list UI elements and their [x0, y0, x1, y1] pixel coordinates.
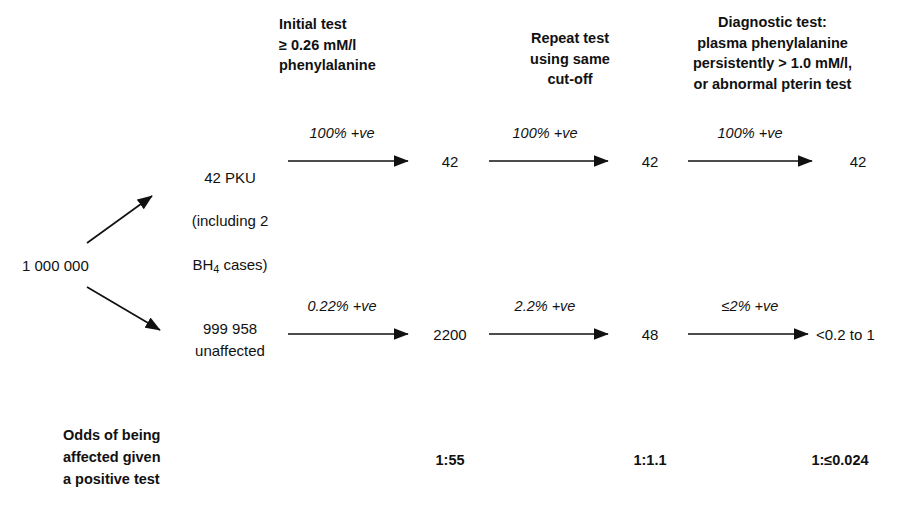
unaffected-value-3: <0.2 to 1 — [816, 326, 875, 343]
bh-suffix: cases) — [219, 256, 267, 273]
unaffected-value-2: 48 — [615, 326, 685, 343]
affected-value-3: 42 — [823, 153, 893, 170]
unaffected-value-1: 2200 — [415, 326, 485, 343]
affected-rate-1: 100% +ve — [272, 125, 412, 141]
header-diagnostic-test: Diagnostic test: plasma phenylalanine pe… — [640, 12, 905, 94]
affected-rate-2: 100% +ve — [475, 125, 615, 141]
unaffected-rate-3: ≤2% +ve — [680, 298, 820, 314]
node-affected-line-3: BH4 cases) — [182, 254, 278, 277]
odds-value-3: 1:≤0.024 — [785, 452, 895, 468]
node-affected-pku: 42 PKU (including 2 BH4 cases) — [182, 145, 278, 299]
node-total-population: 1 000 000 — [22, 255, 89, 277]
unaffected-rate-2: 2.2% +ve — [475, 298, 615, 314]
node-affected-line-2: (including 2 — [182, 210, 278, 232]
affected-rate-3: 100% +ve — [680, 125, 820, 141]
odds-value-1: 1:55 — [395, 452, 505, 468]
odds-caption: Odds of being affected given a positive … — [63, 425, 161, 490]
unaffected-rate-1: 0.22% +ve — [272, 298, 412, 314]
node-affected-line-1: 42 PKU — [182, 167, 278, 189]
pku-screening-diagram: Initial test ≥ 0.26 mM/l phenylalanine R… — [0, 0, 905, 521]
affected-value-1: 42 — [415, 153, 485, 170]
bh-prefix: BH — [192, 256, 213, 273]
affected-value-2: 42 — [615, 153, 685, 170]
odds-value-2: 1:1.1 — [595, 452, 705, 468]
header-initial-test: Initial test ≥ 0.26 mM/l phenylalanine — [279, 14, 479, 76]
branch-arrow-affected — [87, 196, 152, 243]
node-unaffected: 999 958 unaffected — [182, 318, 278, 362]
branch-arrow-unaffected — [87, 287, 160, 330]
header-repeat-test: Repeat test using same cut-off — [490, 28, 650, 90]
